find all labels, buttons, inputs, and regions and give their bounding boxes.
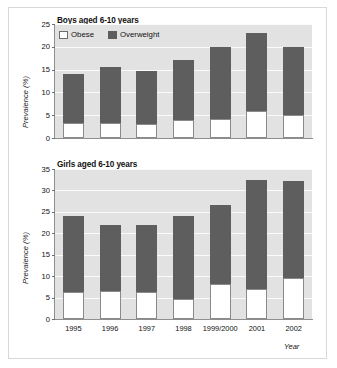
y-tick-mark xyxy=(52,92,55,93)
y-tick-label: 20 xyxy=(30,42,50,51)
y-axis-label-boys: Prevalence (%) xyxy=(21,76,30,128)
bar-segment-overweight xyxy=(136,71,157,124)
gridline xyxy=(55,190,312,191)
bar-segment-overweight xyxy=(210,47,231,119)
bar-segment-obese xyxy=(210,284,231,319)
chart-panel-boys: Boys aged 6-10 years Prevalence (%) Obes… xyxy=(9,12,326,172)
bar-segment-obese xyxy=(173,299,194,319)
y-tick-label: 20 xyxy=(30,229,50,238)
x-tick-label: 1998 xyxy=(165,324,202,333)
bar-segment-obese xyxy=(283,278,304,319)
y-tick-mark xyxy=(52,47,55,48)
bar-segment-overweight xyxy=(100,225,121,291)
chart-panel-girls: Girls aged 6-10 years Prevalence (%) Yea… xyxy=(9,154,326,354)
y-tick-label: 0 xyxy=(30,134,50,143)
bar-segment-obese xyxy=(100,123,121,139)
bar-segment-overweight xyxy=(283,47,304,114)
gridline xyxy=(55,24,312,25)
bar-2001 xyxy=(246,180,267,319)
y-tick-label: 0 xyxy=(30,315,50,324)
bar-1997 xyxy=(136,225,157,319)
y-tick-label: 35 xyxy=(30,165,50,174)
overweight-swatch-icon xyxy=(108,31,117,39)
y-tick-mark xyxy=(52,255,55,256)
bar-1998 xyxy=(173,60,194,138)
bar-segment-overweight xyxy=(283,181,304,279)
bar-segment-obese xyxy=(210,119,231,138)
y-tick-mark xyxy=(52,24,55,25)
obese-swatch-icon xyxy=(59,31,68,39)
figure-container: Boys aged 6-10 years Prevalence (%) Obes… xyxy=(8,7,327,359)
bar-1999-2000 xyxy=(210,47,231,138)
bar-segment-overweight xyxy=(246,33,267,111)
y-tick-mark xyxy=(52,212,55,213)
legend-item-obese: Obese xyxy=(59,30,94,39)
y-tick-label: 5 xyxy=(30,111,50,120)
x-tick-label: 1996 xyxy=(92,324,129,333)
y-axis-label-girls: Prevalence (%) xyxy=(21,232,30,284)
chart-title-girls: Girls aged 6-10 years xyxy=(57,160,137,169)
bar-2001 xyxy=(246,33,267,138)
gridline xyxy=(55,212,312,213)
x-tick-label: 1999/2000 xyxy=(202,324,239,333)
bar-segment-overweight xyxy=(100,67,121,123)
y-tick-label: 5 xyxy=(30,293,50,302)
bar-segment-overweight xyxy=(246,180,267,289)
x-tick-label: 2001 xyxy=(239,324,276,333)
bar-segment-obese xyxy=(246,111,267,138)
bar-1998 xyxy=(173,216,194,319)
bar-1995 xyxy=(63,216,84,319)
bar-1996 xyxy=(100,225,121,319)
legend-label-obese: Obese xyxy=(71,30,94,39)
plot-area-girls xyxy=(55,169,312,319)
gridline xyxy=(55,47,312,48)
x-axis-line-girls xyxy=(54,319,313,320)
legend-item-overweight: Overweight xyxy=(108,30,159,39)
bar-2002 xyxy=(283,181,304,319)
y-tick-mark xyxy=(52,276,55,277)
bar-1996 xyxy=(100,67,121,138)
plot-area-boys xyxy=(55,24,312,138)
y-tick-mark xyxy=(52,190,55,191)
y-tick-label: 25 xyxy=(30,207,50,216)
gridline xyxy=(55,169,312,170)
y-axis-line-boys xyxy=(54,24,55,139)
y-tick-label: 25 xyxy=(30,20,50,29)
y-tick-mark xyxy=(52,298,55,299)
y-tick-label: 30 xyxy=(30,186,50,195)
y-tick-label: 10 xyxy=(30,88,50,97)
y-tick-mark xyxy=(52,115,55,116)
y-tick-mark xyxy=(52,70,55,71)
legend-boys: Obese Overweight xyxy=(59,30,159,39)
bar-segment-obese xyxy=(136,124,157,138)
bar-2002 xyxy=(283,47,304,138)
y-tick-mark xyxy=(52,169,55,170)
bar-segment-obese xyxy=(63,123,84,138)
bar-segment-obese xyxy=(283,115,304,138)
bar-segment-overweight xyxy=(136,225,157,291)
bar-segment-obese xyxy=(173,120,194,138)
bar-1995 xyxy=(63,74,84,138)
y-tick-label: 15 xyxy=(30,65,50,74)
bar-1999-2000 xyxy=(210,205,231,319)
x-axis-label-girls: Year xyxy=(284,342,299,351)
bar-segment-obese xyxy=(63,292,84,319)
y-tick-mark xyxy=(52,233,55,234)
bar-segment-obese xyxy=(246,289,267,319)
y-tick-mark xyxy=(52,138,55,139)
bar-segment-overweight xyxy=(63,216,84,292)
bar-segment-obese xyxy=(100,291,121,319)
legend-label-overweight: Overweight xyxy=(120,30,159,39)
x-tick-label: 2002 xyxy=(275,324,312,333)
x-axis-line-boys xyxy=(54,138,313,139)
y-tick-label: 10 xyxy=(30,272,50,281)
bar-segment-overweight xyxy=(210,205,231,284)
bar-segment-overweight xyxy=(173,216,194,299)
bar-segment-overweight xyxy=(173,60,194,120)
y-tick-label: 15 xyxy=(30,250,50,259)
bar-1997 xyxy=(136,71,157,138)
y-tick-mark xyxy=(52,319,55,320)
x-tick-label: 1997 xyxy=(128,324,165,333)
bar-segment-overweight xyxy=(63,74,84,123)
bar-segment-obese xyxy=(136,292,157,319)
